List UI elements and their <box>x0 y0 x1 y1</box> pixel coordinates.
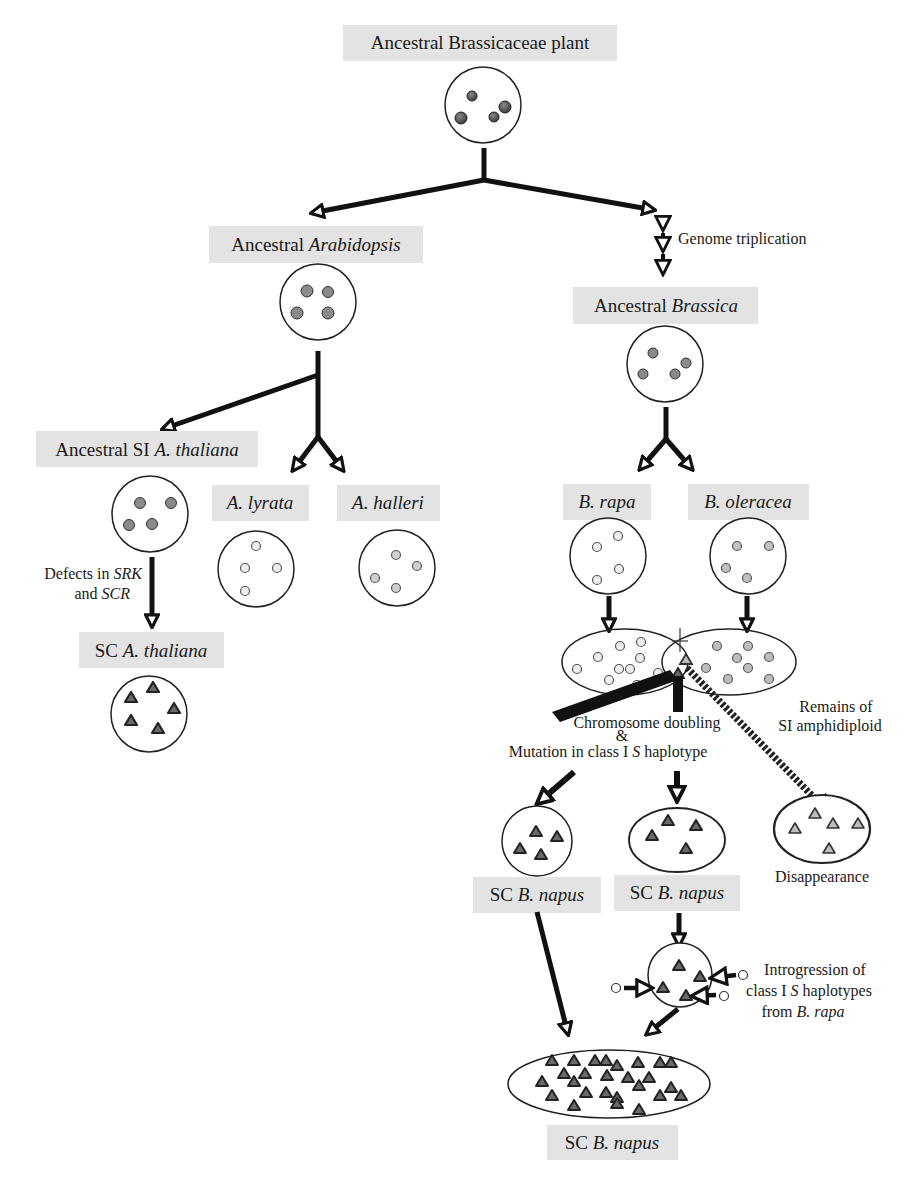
svg-text:A. lyrata: A. lyrata <box>225 492 294 513</box>
cell-circle <box>280 264 356 340</box>
cell-disappearance <box>774 795 870 863</box>
arrow-napus1-to-final <box>537 912 568 1034</box>
branch-root <box>312 148 654 213</box>
label-introgression-line1: Introgression of <box>764 961 866 979</box>
svg-text:SC B. napus: SC B. napus <box>630 882 725 903</box>
label-italic: Arabidopsis <box>307 234 401 255</box>
svg-text:Ancestral Brassica: Ancestral Brassica <box>594 295 738 316</box>
node-sc-b-napus-final: SC B. napus <box>547 1125 678 1160</box>
node-ancestral-brassica: Ancestral Brassica <box>573 287 758 402</box>
label-chromosome-doubling: Chromosome doubling <box>573 714 720 732</box>
label-defects-line2: and SCR <box>74 585 130 602</box>
node-a-halleri: A. halleri <box>337 485 440 606</box>
cell-circle <box>359 530 435 606</box>
label-remains-line2: SI amphidiploid <box>778 717 882 735</box>
label-genome-triplication: Genome triplication <box>678 230 806 248</box>
label-ampersand: & <box>616 727 629 744</box>
node-ancestral-arabidopsis: Ancestral Arabidopsis <box>209 226 423 340</box>
label-plain: Ancestral <box>231 234 309 255</box>
label-introgression-line3: from B. rapa <box>761 1003 844 1021</box>
node-sc-a-thaliana: SC A. thaliana <box>79 632 224 752</box>
label-introgression-line2: class I S haplotypes <box>746 982 872 1000</box>
label-ancestral-brassicaceae: Ancestral Brassicaceae plant <box>371 32 590 53</box>
label-remains-line1: Remains of <box>799 698 873 715</box>
svg-text:Ancestral SI A. thaliana: Ancestral SI A. thaliana <box>55 439 239 460</box>
label-mutation: Mutation in class I S haplotype <box>509 743 708 761</box>
label-disappearance: Disappearance <box>775 868 869 886</box>
cell-circle <box>627 326 703 402</box>
label-defects-line1: Defects in SRK <box>44 565 143 582</box>
node-b-oleracea: B. oleracea <box>688 484 809 594</box>
cell-circle <box>112 476 188 552</box>
cell-sc-b-napus-1 <box>502 806 572 876</box>
node-a-lyrata: A. lyrata <box>212 485 309 607</box>
svg-text:SC B. napus: SC B. napus <box>490 884 585 905</box>
svg-text:B. rapa: B. rapa <box>579 491 636 512</box>
brassicaceae-si-evolution-diagram: Ancestral Brassicaceae plant Genome trip… <box>0 0 919 1187</box>
arrow-to-napus-1 <box>538 772 574 803</box>
svg-text:Ancestral Arabidopsis: Ancestral Arabidopsis <box>231 234 400 255</box>
svg-text:B. oleracea: B. oleracea <box>704 491 792 512</box>
svg-text:SC A. thaliana: SC A. thaliana <box>95 640 207 661</box>
node-sc-b-napus-1: SC B. napus <box>473 877 601 913</box>
arrow-remains-dotted <box>687 668 830 814</box>
arrow-introgression-to-final <box>647 1009 678 1034</box>
branch-brassica <box>640 407 692 469</box>
node-ancestral-brassicaceae: Ancestral Brassicaceae plant <box>343 25 617 143</box>
svg-text:A. halleri: A. halleri <box>350 492 424 513</box>
cell-circle <box>570 518 646 594</box>
node-b-rapa: B. rapa <box>563 484 651 594</box>
cell-sc-b-napus-2 <box>629 808 725 872</box>
svg-text:SC B. napus: SC B. napus <box>565 1132 660 1153</box>
cell-sc-b-napus-final <box>508 1050 710 1118</box>
node-sc-b-napus-2: SC B. napus <box>614 875 740 911</box>
